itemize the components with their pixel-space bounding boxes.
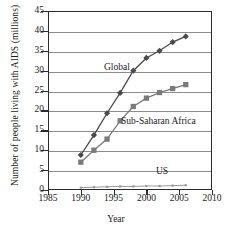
series-label-sub-saharan-africa: Sub-Saharan Africa xyxy=(121,116,196,126)
series-line xyxy=(81,36,186,155)
y-tick-mark xyxy=(41,150,48,151)
series-global xyxy=(78,33,189,158)
data-point-marker xyxy=(78,160,83,165)
x-axis-tick-labels: 198519901995200020052010 xyxy=(0,193,232,207)
x-tick-mark xyxy=(179,190,180,195)
y-tick-mark xyxy=(41,170,48,171)
x-tick-mark xyxy=(212,190,213,195)
x-tick-mark xyxy=(114,190,115,195)
data-point-marker xyxy=(172,185,174,187)
data-point-marker xyxy=(145,185,147,187)
x-tick-mark xyxy=(81,190,82,195)
data-point-marker xyxy=(183,82,188,87)
data-point-marker xyxy=(106,186,108,188)
x-axis-title: Year xyxy=(0,214,232,224)
data-point-marker xyxy=(80,187,82,189)
series-us xyxy=(80,184,187,189)
data-point-marker xyxy=(132,185,134,187)
y-axis-title: Number of people living with AIDS (milli… xyxy=(10,8,20,186)
data-point-marker xyxy=(183,33,189,39)
data-point-marker xyxy=(131,104,136,109)
y-tick-mark xyxy=(41,91,48,92)
y-tick-mark xyxy=(41,71,48,72)
data-point-marker xyxy=(119,185,121,187)
data-point-marker xyxy=(144,95,149,100)
x-tick-mark xyxy=(48,190,49,195)
data-point-marker xyxy=(157,90,162,95)
y-tick-mark xyxy=(41,130,48,131)
data-point-marker xyxy=(170,86,175,91)
y-tick-mark xyxy=(41,110,48,111)
data-point-marker xyxy=(93,186,95,188)
series-overlay xyxy=(48,11,212,190)
y-tick-mark xyxy=(41,51,48,52)
x-tick-mark xyxy=(146,190,147,195)
series-label-us: US xyxy=(156,166,168,176)
series-label-global: Global xyxy=(104,62,130,72)
y-tick-mark xyxy=(41,31,48,32)
y-tick-mark xyxy=(41,11,48,12)
y-tick-mark xyxy=(41,190,48,191)
data-point-marker xyxy=(91,148,96,153)
data-point-marker xyxy=(185,184,187,186)
data-point-marker xyxy=(104,136,109,141)
aids-prevalence-line-chart: Number of people living with AIDS (milli… xyxy=(0,0,232,238)
data-point-marker xyxy=(158,185,160,187)
